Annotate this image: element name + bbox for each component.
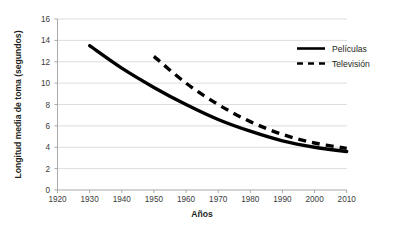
y-tick-label-8: 8: [45, 101, 50, 110]
x-tick-label-1980: 1980: [241, 195, 260, 204]
x-tick-label-1970: 1970: [209, 195, 228, 204]
y-axis-title: Longitud media de toma (segundos): [13, 30, 23, 178]
x-tick-label-2000: 2000: [305, 195, 324, 204]
x-tick-label-1960: 1960: [177, 195, 196, 204]
y-tick-label-14: 14: [41, 36, 51, 45]
x-tick-label-1990: 1990: [273, 195, 292, 204]
y-tick-label-4: 4: [45, 143, 50, 152]
line-chart: 16 14 12 10 8 6 4 2 0 1920 1930 1940 195…: [0, 0, 409, 236]
x-tick-label-2010: 2010: [338, 195, 357, 204]
chart-container: 16 14 12 10 8 6 4 2 0 1920 1930 1940 195…: [0, 0, 409, 236]
x-tick-label-1920: 1920: [48, 195, 67, 204]
legend-label-television: Televisión: [332, 59, 370, 69]
x-tick-label-1940: 1940: [113, 195, 132, 204]
y-tick-label-12: 12: [41, 58, 51, 67]
y-tick-label-10: 10: [41, 79, 51, 88]
x-axis-title: Años: [191, 209, 213, 219]
y-tick-label-2: 2: [45, 165, 50, 174]
x-tick-label-1950: 1950: [145, 195, 164, 204]
y-tick-label-6: 6: [45, 122, 50, 131]
y-tick-label-0: 0: [45, 186, 50, 195]
x-tick-label-1930: 1930: [80, 195, 99, 204]
y-tick-label-16: 16: [41, 15, 51, 24]
legend-label-peliculas: Películas: [332, 44, 367, 54]
